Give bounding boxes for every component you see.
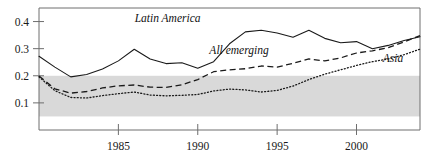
x-tick-label-2000: 2000 [345,140,368,152]
latin-america-label: Latin America [134,12,201,24]
asia-label: Asia [382,52,404,64]
line-chart: 0.4 0.3 0.2 0.1 1985 1990 1995 2000 Lati… [0,0,436,163]
chart-figure: 0.4 0.3 0.2 0.1 1985 1990 1995 2000 Lati… [0,0,436,163]
x-tick-label-1990: 1990 [186,140,209,152]
all-emerging-label: All emerging [208,44,269,57]
x-tick-label-1985: 1985 [107,140,130,152]
y-tick-label-2: 0.2 [15,70,30,82]
x-tick-label-1995: 1995 [266,140,289,152]
y-tick-label-1: 0.3 [15,43,30,55]
y-tick-label-0: 0.4 [15,16,30,28]
y-tick-label-3: 0.1 [15,97,30,109]
